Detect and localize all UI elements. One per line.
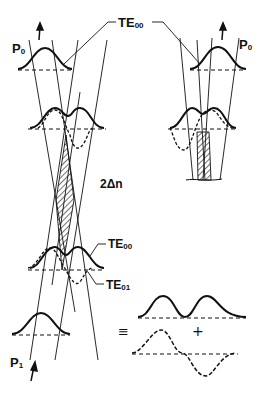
leader-te00-top [64,22,116,64]
label-p1: P1 [10,356,23,369]
label-te00-top-sub: 00 [135,21,144,30]
label-te00-mid-sub: 00 [123,242,132,251]
label-te01-main: TE [106,278,121,292]
label-te00-top-main: TE [118,15,135,30]
label-p0-right-sub: 0 [248,43,252,52]
waveguide-diagram [0,0,264,401]
plus-symbol: + [192,324,204,338]
label-te00-mid-main: TE [108,237,123,251]
label-p1-sub: 1 [19,361,23,370]
arrow-up-icon-p0-right [220,23,226,40]
hatched-region-right [197,132,211,180]
label-p0-right: P0 [239,38,252,51]
diagram-canvas: P0 P0 P1 TE00 TE00 TE01 2Δn ≡ + [0,0,264,401]
equivalence-symbol: ≡ [118,325,129,338]
label-p0-left-sub: 0 [21,47,25,56]
label-p1-main: P [10,355,19,370]
symmetric-double-peak [138,296,246,318]
label-delta-n: 2Δn [100,178,123,190]
label-p0-left: P0 [12,42,25,55]
arrow-up-icon-p0-left [37,23,43,40]
leader-te01 [88,272,104,284]
label-te00-mid: TE00 [108,238,132,250]
antisymmetric-profile [132,330,238,376]
leader-te00-top-right [152,22,200,64]
gaussian-p0-left [18,48,72,70]
label-te00-top: TE00 [118,16,144,29]
leader-te00-mid [90,244,106,256]
label-te01-sub: 01 [121,283,130,292]
arrow-up-icon-p1 [31,362,37,381]
label-p0-right-main: P [239,37,248,52]
label-te01: TE01 [106,279,130,291]
label-p0-left-main: P [12,41,21,56]
